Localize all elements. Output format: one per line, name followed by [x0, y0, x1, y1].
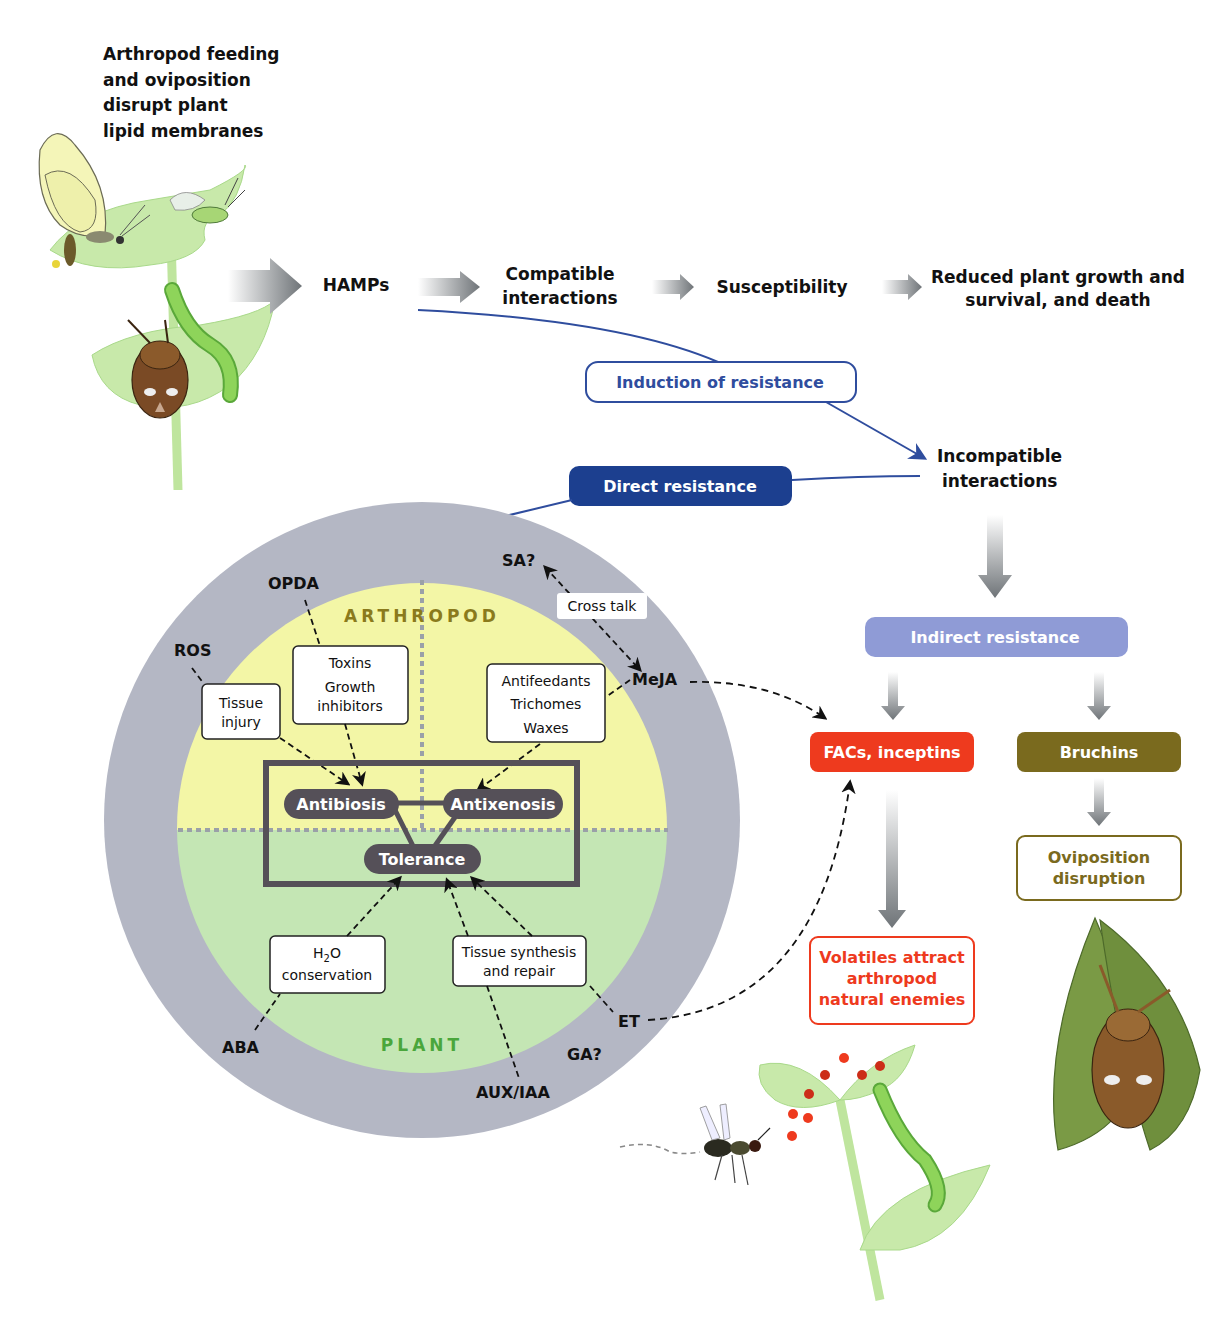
- direct-connector: [792, 476, 920, 480]
- reduced-growth-line2: survival, and death: [965, 290, 1150, 310]
- down-arrow-icon: [1087, 778, 1111, 826]
- cross-talk-label: Cross talk: [568, 598, 638, 614]
- aux-iaa-label: AUX/IAA: [476, 1083, 550, 1102]
- aphid-icon: [192, 207, 228, 223]
- tissue-injury-box: [202, 684, 280, 739]
- resistance-diagram: Arthropod feeding and oviposition disrup…: [0, 0, 1223, 1328]
- big-arrow-icon: [228, 258, 302, 314]
- svg-text:disrupt plant: disrupt plant: [103, 95, 228, 115]
- volatiles-line2: arthropod: [847, 969, 938, 988]
- antifeedants-line2: Trichomes: [510, 696, 582, 712]
- oviposition-line1: Oviposition: [1048, 848, 1150, 867]
- h2o-conservation-box: [270, 936, 385, 993]
- sa-label: SA?: [502, 551, 535, 570]
- reduced-growth-line1: Reduced plant growth and: [931, 267, 1185, 287]
- facs-label: FACs, inceptins: [823, 743, 960, 762]
- direct-resistance-label: Direct resistance: [603, 477, 757, 496]
- toxins-line2: Growth: [325, 679, 376, 695]
- et-label: ET: [618, 1012, 640, 1031]
- antixenosis-label: Antixenosis: [451, 795, 556, 814]
- oviposition-line2: disruption: [1053, 869, 1146, 888]
- arrow-icon: [652, 274, 694, 300]
- down-arrow-icon: [878, 790, 906, 928]
- tissue-injury-line2: injury: [221, 714, 261, 730]
- hamps-label: HAMPs: [323, 275, 390, 295]
- plant-volatiles-illustration: [620, 1045, 990, 1300]
- wasp-icon: [704, 1139, 732, 1157]
- compatible-label-line2: interactions: [502, 288, 617, 308]
- volatiles-line3: natural enemies: [819, 990, 966, 1009]
- bruchins-label: Bruchins: [1060, 743, 1139, 762]
- induction-connector: [418, 310, 718, 362]
- antifeedants-line1: Antifeedants: [501, 673, 590, 689]
- pod-with-bruchid-illustration: [1054, 918, 1200, 1150]
- induction-label: Induction of resistance: [616, 373, 824, 392]
- down-arrow-icon: [978, 515, 1012, 598]
- oviposition-disruption-box: [1017, 836, 1181, 900]
- opda-label: OPDA: [268, 574, 320, 593]
- compatible-label-line1: Compatible: [506, 264, 615, 284]
- down-arrow-icon: [881, 672, 905, 720]
- induction-arrow: [826, 402, 924, 458]
- antibiosis-label: Antibiosis: [296, 795, 385, 814]
- svg-text:lipid membranes: lipid membranes: [103, 121, 263, 141]
- plant-with-herbivores-illustration: [39, 134, 275, 490]
- antifeedants-line3: Waxes: [523, 720, 568, 736]
- conservation-label: conservation: [282, 967, 372, 983]
- plant-region-label: PLANT: [381, 1035, 463, 1055]
- volatiles-line1: Volatiles attract: [819, 948, 965, 967]
- tissue-injury-line1: Tissue: [218, 695, 263, 711]
- tissue-synthesis-line2: and repair: [483, 963, 555, 979]
- arrow-icon: [418, 271, 480, 303]
- tolerance-label: Tolerance: [379, 850, 466, 869]
- susceptibility-label: Susceptibility: [716, 277, 847, 297]
- arthropod-region-label: ARTHROPOD: [344, 606, 500, 626]
- down-arrow-icon: [1087, 672, 1111, 720]
- ga-label: GA?: [567, 1045, 602, 1064]
- svg-text:Arthropod feeding: Arthropod feeding: [103, 44, 280, 64]
- meja-label: MeJA: [632, 670, 678, 689]
- tissue-synthesis-line1: Tissue synthesis: [461, 944, 576, 960]
- intro-caption: Arthropod feeding and oviposition disrup…: [103, 44, 280, 141]
- toxins-line1: Toxins: [328, 655, 372, 671]
- indirect-resistance-label: Indirect resistance: [910, 628, 1079, 647]
- incompatible-line2: interactions: [942, 471, 1057, 491]
- toxins-line3: inhibitors: [317, 698, 382, 714]
- volatile-dot: [788, 1109, 798, 1119]
- incompatible-line1: Incompatible: [937, 446, 1062, 466]
- arrow-icon: [882, 274, 922, 300]
- svg-text:and oviposition: and oviposition: [103, 70, 251, 90]
- aba-label: ABA: [222, 1038, 260, 1057]
- ros-label: ROS: [174, 641, 211, 660]
